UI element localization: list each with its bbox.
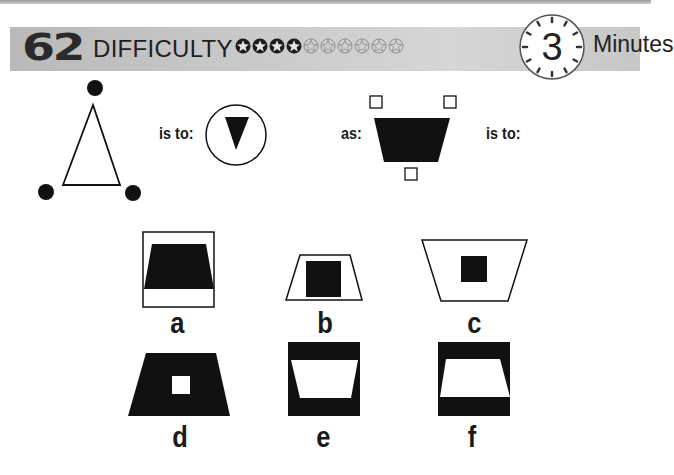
option-f-label[interactable]: f <box>468 420 477 454</box>
is-to-label-1: is to: <box>159 124 194 144</box>
as-label: as: <box>341 124 362 144</box>
trapezoid-with-squares-figure <box>370 96 456 180</box>
triangle-with-dots-figure <box>38 80 141 201</box>
option-b-label[interactable]: b <box>317 306 333 340</box>
option-f-figure[interactable] <box>438 342 510 416</box>
option-a-label[interactable]: a <box>170 306 184 340</box>
option-d-figure[interactable] <box>128 353 230 416</box>
option-a-figure[interactable] <box>143 232 214 307</box>
circle-with-triangle-figure <box>206 105 266 165</box>
option-e-label[interactable]: e <box>316 420 330 454</box>
option-b-figure[interactable] <box>286 255 362 300</box>
option-d-label[interactable]: d <box>172 420 188 454</box>
option-c-figure[interactable] <box>422 240 527 301</box>
is-to-label-2: is to: <box>486 124 521 144</box>
option-c-label[interactable]: c <box>467 306 481 340</box>
option-e-figure[interactable] <box>288 342 360 416</box>
